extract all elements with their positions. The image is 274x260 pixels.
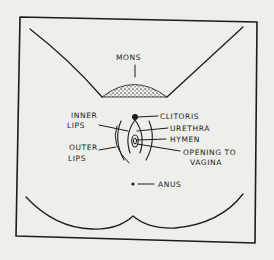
hymen-shape bbox=[134, 138, 137, 144]
label-inner-line2: LIPS bbox=[67, 121, 85, 130]
opening-pointer bbox=[137, 144, 180, 151]
label-mons: MONS bbox=[116, 53, 141, 62]
right-thigh-line bbox=[167, 27, 243, 97]
outer-lips-outer-curve bbox=[115, 126, 129, 163]
label-urethra: URETHRA bbox=[170, 124, 210, 133]
label-outer-line2: LIPS bbox=[68, 154, 86, 163]
label-opening-line2: VAGINA bbox=[190, 158, 222, 167]
left-thigh-line bbox=[30, 29, 102, 97]
hymen-pointer bbox=[137, 139, 166, 140]
label-clitoris: CLITORIS bbox=[160, 112, 199, 121]
clitoris-pointer bbox=[138, 116, 158, 117]
vaginal-opening bbox=[132, 135, 138, 147]
buttocks-curve bbox=[26, 194, 243, 229]
frame-border bbox=[16, 17, 257, 243]
mons-region bbox=[102, 85, 167, 98]
inner-lips-pointer bbox=[99, 125, 128, 131]
anus-dot bbox=[131, 182, 134, 185]
label-outer-line1: OUTER bbox=[69, 143, 98, 152]
urethra-pointer bbox=[137, 128, 168, 131]
label-inner-line1: INNER bbox=[71, 111, 97, 120]
inner-lips-shape bbox=[128, 120, 142, 153]
label-anus: ANUS bbox=[158, 180, 181, 189]
outer-lips-shape bbox=[118, 121, 153, 160]
outer-lips-pointer bbox=[99, 147, 116, 150]
label-opening-line1: OPENING TO bbox=[183, 148, 236, 157]
clitoris-shape bbox=[132, 114, 138, 120]
anatomy-diagram: MONS CLITORIS URETHRA HYMEN OPENING TO V… bbox=[0, 0, 274, 260]
label-hymen: HYMEN bbox=[170, 135, 200, 144]
